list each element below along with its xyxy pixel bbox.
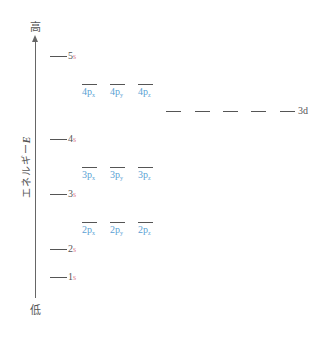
orbital-label: 4p (110, 86, 120, 97)
level-3pz-label: 3pz (138, 170, 151, 183)
level-3py-line (110, 167, 125, 168)
orbital-label: 3p (82, 169, 92, 180)
orbital-sub: y (120, 92, 123, 98)
level-3d-line-4 (251, 111, 266, 112)
level-2py-label: 2py (110, 225, 123, 238)
level-4px-label: 4px (82, 87, 95, 100)
orbital-label: 4p (82, 86, 92, 97)
level-3d-line-1 (166, 111, 181, 112)
level-4pz-line (138, 84, 153, 85)
axis-title: エネルギーE (18, 136, 33, 199)
level-3px-label: 3px (82, 170, 95, 183)
level-4py-label: 4py (110, 87, 123, 100)
level-2px-line (82, 222, 97, 223)
level-3pz-line (138, 167, 153, 168)
level-2px-label: 2px (82, 225, 95, 238)
level-2pz-label: 2pz (138, 225, 151, 238)
orbital-sub: x (92, 92, 95, 98)
orbital-sub: x (92, 230, 95, 236)
orbital-label: 2p (110, 224, 120, 235)
orbital-label: 3p (138, 169, 148, 180)
level-4s-label: 4s (68, 134, 76, 145)
level-2s-label: 2s (68, 244, 76, 255)
level-3px-line (82, 167, 97, 168)
axis-high-label: 高 (30, 18, 41, 34)
level-3s-sub: s (73, 190, 76, 199)
orbital-label: 2p (82, 224, 92, 235)
axis-low-label: 低 (30, 301, 41, 317)
level-5s-line (50, 56, 67, 57)
orbital-label: 3p (110, 169, 120, 180)
energy-axis (35, 40, 36, 298)
level-2s-sub: s (73, 245, 76, 254)
level-3s-line (50, 194, 67, 195)
level-3py-label: 3py (110, 170, 123, 183)
orbital-label: 2p (138, 224, 148, 235)
level-4s-line (50, 139, 67, 140)
level-2pz-line (138, 222, 153, 223)
level-4px-line (82, 84, 97, 85)
level-2py-line (110, 222, 125, 223)
level-1s-line (50, 277, 67, 278)
level-5s-label: 5s (68, 51, 76, 62)
level-1s-label: 1s (68, 272, 76, 283)
orbital-sub: z (148, 92, 151, 98)
level-1s-sub: s (73, 273, 76, 282)
level-4py-line (110, 84, 125, 85)
level-2s-line (50, 249, 67, 250)
orbital-label: 4p (138, 86, 148, 97)
orbital-sub: x (92, 175, 95, 181)
orbital-sub: z (148, 175, 151, 181)
orbital-sub: y (120, 230, 123, 236)
level-5s-sub: s (73, 52, 76, 61)
orbital-sub: z (148, 230, 151, 236)
level-3d-line-2 (195, 111, 210, 112)
level-3d-line-3 (223, 111, 238, 112)
axis-title-text: エネルギー (21, 143, 32, 198)
level-4pz-label: 4pz (138, 87, 151, 100)
level-4s-sub: s (73, 135, 76, 144)
level-3d-label: 3d (298, 106, 308, 116)
orbital-sub: y (120, 175, 123, 181)
level-3d-line-5 (280, 111, 295, 112)
axis-title-variable: E (21, 136, 32, 144)
level-3s-label: 3s (68, 189, 76, 200)
